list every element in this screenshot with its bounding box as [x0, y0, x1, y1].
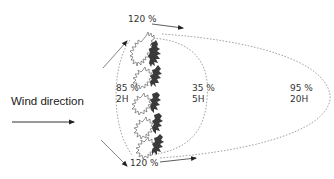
near-leeward-zone-value: 35 %: [192, 83, 215, 94]
lower-deflection-arrow-icon: [101, 140, 127, 166]
upper-deflection-arrow-icon: [103, 41, 127, 68]
windbreak-diagram: [0, 0, 334, 179]
top-edge-speed-label: 120 %: [128, 14, 157, 25]
upwind-zone-distance: 2H: [116, 94, 139, 105]
wind-direction-label: Wind direction: [11, 95, 84, 107]
far-leeward-zone-label: 95 % 20H: [290, 83, 313, 105]
near-leeward-zone-distance: 5H: [192, 94, 215, 105]
top-speedup-arrow-icon: [152, 24, 183, 28]
near-leeward-zone-label: 35 % 5H: [192, 83, 215, 105]
bottom-speedup-arrow-icon: [160, 158, 196, 162]
far-leeward-zone-value: 95 %: [290, 83, 313, 94]
upwind-zone-value: 85 %: [116, 83, 139, 94]
far-leeward-zone-distance: 20H: [290, 94, 313, 105]
upwind-zone-label: 85 % 2H: [116, 83, 139, 105]
bottom-edge-speed-label: 120 %: [130, 158, 159, 169]
